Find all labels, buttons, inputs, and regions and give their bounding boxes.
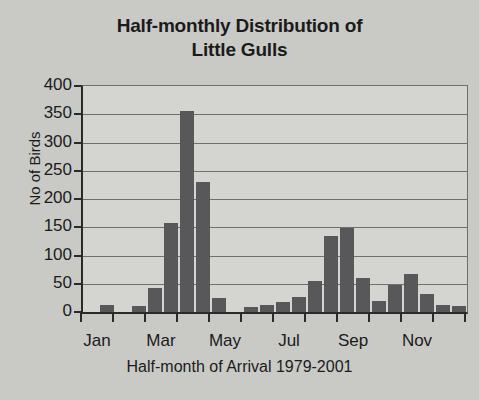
x-axis-tick bbox=[272, 313, 274, 322]
y-axis-tick-label: 350 bbox=[4, 104, 72, 121]
x-axis-tick bbox=[432, 313, 434, 322]
bar bbox=[212, 298, 227, 312]
bar bbox=[388, 285, 403, 312]
chart-title: Half-monthly Distribution of Little Gull… bbox=[0, 14, 479, 62]
bar bbox=[372, 301, 387, 312]
bar bbox=[436, 305, 451, 312]
x-axis-tick bbox=[464, 313, 466, 322]
y-axis-tick bbox=[74, 226, 81, 228]
x-axis-tick bbox=[144, 313, 146, 322]
gridline bbox=[83, 143, 467, 144]
y-axis-tick-label: 100 bbox=[4, 246, 72, 263]
y-axis-tick-label: 50 bbox=[4, 274, 72, 291]
x-axis-tick bbox=[304, 313, 306, 322]
chart-title-line-2: Little Gulls bbox=[0, 38, 479, 62]
bar bbox=[244, 307, 259, 312]
bar bbox=[324, 236, 339, 312]
gridline bbox=[83, 171, 467, 172]
bar bbox=[196, 182, 211, 312]
y-axis-tick bbox=[74, 255, 81, 257]
bar bbox=[404, 274, 419, 312]
x-axis-tick bbox=[80, 313, 82, 322]
y-axis-tick bbox=[74, 113, 81, 115]
y-axis-tick bbox=[74, 85, 81, 87]
y-axis-tick bbox=[74, 283, 81, 285]
gridline bbox=[83, 199, 467, 200]
plot-area bbox=[81, 85, 468, 314]
y-axis-tick bbox=[74, 198, 81, 200]
x-axis-tick-label: Jan bbox=[62, 331, 132, 351]
x-axis-tick bbox=[400, 313, 402, 322]
gridline bbox=[83, 256, 467, 257]
x-axis-tick bbox=[240, 313, 242, 322]
y-axis-tick-label: 250 bbox=[4, 161, 72, 178]
bar bbox=[100, 305, 115, 312]
bar bbox=[276, 302, 291, 312]
x-axis-tick-labels: JanMarMayJulSepNov bbox=[0, 331, 479, 355]
bar bbox=[164, 223, 179, 312]
bar bbox=[148, 288, 163, 312]
gridline bbox=[83, 227, 467, 228]
bar bbox=[260, 305, 275, 312]
y-axis-tick-label: 400 bbox=[4, 76, 72, 93]
bar bbox=[420, 294, 435, 312]
x-axis-label: Half-month of Arrival 1979-2001 bbox=[0, 358, 479, 376]
x-axis-tick-label: Nov bbox=[382, 331, 452, 351]
x-axis-tick bbox=[336, 313, 338, 322]
bar bbox=[292, 297, 307, 312]
x-axis-tick-label: Jul bbox=[254, 331, 324, 351]
x-axis-tick-label: Mar bbox=[126, 331, 196, 351]
y-axis-tick-label: 300 bbox=[4, 133, 72, 150]
bar bbox=[452, 306, 467, 312]
bar bbox=[180, 111, 195, 312]
x-axis-tick bbox=[368, 313, 370, 322]
gridline bbox=[83, 114, 467, 115]
chart-figure: Half-monthly Distribution of Little Gull… bbox=[0, 0, 479, 400]
y-axis-tick-labels: 400350300250200150100500 bbox=[0, 85, 72, 311]
y-axis-tick-label: 0 bbox=[4, 302, 72, 319]
x-axis-ticks bbox=[81, 313, 467, 323]
y-axis-tick bbox=[74, 142, 81, 144]
x-axis-tick-label: Sep bbox=[318, 331, 388, 351]
x-axis-tick bbox=[112, 313, 114, 322]
x-axis-tick-label: May bbox=[190, 331, 260, 351]
bar bbox=[356, 278, 371, 312]
x-axis-tick bbox=[176, 313, 178, 322]
y-axis-tick-label: 200 bbox=[4, 189, 72, 206]
bar bbox=[340, 228, 355, 312]
chart-title-line-1: Half-monthly Distribution of bbox=[0, 14, 479, 38]
x-axis-tick bbox=[208, 313, 210, 322]
bar bbox=[308, 281, 323, 312]
y-axis-tick bbox=[74, 170, 81, 172]
bar bbox=[132, 306, 147, 312]
y-axis-tick-label: 150 bbox=[4, 217, 72, 234]
